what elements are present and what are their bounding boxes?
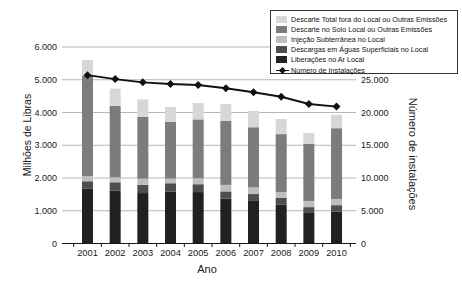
legend-item: Descarte Total fora do Local ou Outras E… bbox=[276, 14, 457, 24]
year-label: 2009 bbox=[299, 248, 320, 258]
legend-label: Liberações no Ar Local bbox=[291, 55, 364, 64]
bar-segment bbox=[331, 199, 342, 205]
year-label: 2008 bbox=[271, 248, 292, 258]
bar-segment bbox=[110, 106, 121, 177]
right-tick-label: 25.000 bbox=[361, 75, 389, 85]
diamond-marker bbox=[305, 100, 313, 108]
legend-item: Liberações no Ar Local bbox=[276, 55, 457, 65]
bar-segment bbox=[220, 191, 231, 198]
bar-segment bbox=[331, 115, 342, 128]
x-axis-title: Ano bbox=[167, 263, 247, 275]
bar-segment bbox=[82, 181, 93, 189]
bar-segment bbox=[137, 99, 148, 116]
right-tick-label: 10.000 bbox=[361, 173, 389, 183]
year-label: 2004 bbox=[160, 248, 181, 258]
bar-segment bbox=[331, 205, 342, 212]
bar-segment bbox=[165, 183, 176, 191]
year-label: 2001 bbox=[77, 248, 98, 258]
bar-segment bbox=[82, 76, 93, 176]
legend-item: Injeção Subterrânea no Local bbox=[276, 34, 457, 44]
legend-label: Injeção Subterrânea no Local bbox=[291, 35, 385, 44]
bar-segment bbox=[193, 192, 204, 243]
legend-item: Descargas em Águas Superficiais no Local bbox=[276, 45, 457, 55]
bar-segment bbox=[248, 111, 259, 127]
left-tick-label: 0 bbox=[52, 239, 57, 249]
legend-label: Número de Instalações bbox=[291, 66, 365, 75]
diamond-marker bbox=[333, 103, 341, 111]
bar-segment bbox=[220, 104, 231, 121]
diamond-marker bbox=[194, 81, 202, 89]
bar-segment bbox=[276, 205, 287, 244]
bar-segment bbox=[110, 191, 121, 244]
bar-segment bbox=[193, 178, 204, 184]
bar-segment bbox=[331, 212, 342, 244]
bar-segment bbox=[82, 189, 93, 244]
legend-box: Descarte Total fora do Local ou Outras E… bbox=[270, 10, 458, 74]
legend-swatch-offsite-disposal-icon bbox=[276, 16, 287, 23]
legend-item: Descarte no Solo Local ou Outras Emissõe… bbox=[276, 24, 457, 34]
bar-segment bbox=[137, 185, 148, 193]
bar-segment bbox=[193, 103, 204, 119]
bar-segment bbox=[110, 182, 121, 191]
diamond-marker bbox=[111, 75, 119, 83]
bar-segment bbox=[165, 191, 176, 243]
left-tick-label: 6.000 bbox=[34, 42, 57, 52]
year-label: 2006 bbox=[216, 248, 237, 258]
legend-swatch-onsite-land-icon bbox=[276, 26, 287, 33]
legend-item: Número de Instalações bbox=[276, 65, 457, 75]
year-label: 2003 bbox=[132, 248, 153, 258]
bar-segment bbox=[165, 107, 176, 122]
bar-segment bbox=[276, 134, 287, 192]
bar-segment bbox=[165, 122, 176, 179]
bar-segment bbox=[303, 213, 314, 243]
diamond-marker bbox=[167, 80, 175, 88]
bar-segment bbox=[248, 194, 259, 201]
legend-label: Descargas em Águas Superficiais no Local bbox=[291, 45, 428, 54]
left-tick-label: 4.000 bbox=[34, 108, 57, 118]
bar-segment bbox=[220, 185, 231, 192]
right-tick-label: 15.000 bbox=[361, 140, 389, 150]
bar-segment bbox=[248, 187, 259, 194]
right-tick-label: 20.000 bbox=[361, 108, 389, 118]
diamond-marker bbox=[277, 93, 285, 101]
legend-swatch-air-releases-icon bbox=[276, 56, 287, 63]
bar-segment bbox=[110, 89, 121, 106]
bar-segment bbox=[137, 117, 148, 179]
legend-label: Descarte no Solo Local ou Outras Emissõe… bbox=[291, 25, 432, 34]
bar-segment bbox=[193, 119, 204, 178]
diamond-marker bbox=[222, 84, 230, 92]
bar-segment bbox=[165, 179, 176, 184]
year-label: 2010 bbox=[326, 248, 347, 258]
left-tick-label: 1.000 bbox=[34, 206, 57, 216]
bar-segment bbox=[220, 199, 231, 244]
bar-segment bbox=[137, 193, 148, 243]
legend-swatch-surface-water-icon bbox=[276, 46, 287, 53]
left-tick-label: 2.000 bbox=[34, 173, 57, 183]
bar-segment bbox=[276, 198, 287, 205]
legend-label: Descarte Total fora do Local ou Outras E… bbox=[291, 15, 447, 24]
bar-segment bbox=[193, 184, 204, 192]
bar-segment bbox=[220, 121, 231, 185]
bar-segment bbox=[276, 192, 287, 198]
left-tick-label: 5.000 bbox=[34, 75, 57, 85]
bar-segment bbox=[303, 207, 314, 213]
bar-segment bbox=[303, 133, 314, 144]
year-label: 2002 bbox=[105, 248, 126, 258]
bar-segment bbox=[248, 127, 259, 187]
chart-figure: 01.0002.0003.0004.0005.0006.00005.00010.… bbox=[0, 0, 462, 292]
legend-swatch-underground-injection-icon bbox=[276, 36, 287, 43]
bar-segment bbox=[82, 176, 93, 181]
bar-segment bbox=[303, 144, 314, 201]
right-axis-title: Número de instalações bbox=[407, 69, 419, 239]
bar-segment bbox=[303, 201, 314, 207]
bar-segment bbox=[248, 201, 259, 244]
year-label: 2007 bbox=[243, 248, 264, 258]
bar-segment bbox=[137, 179, 148, 185]
bar-segment bbox=[110, 177, 121, 182]
left-tick-label: 3.000 bbox=[34, 140, 57, 150]
diamond-marker bbox=[250, 88, 258, 96]
right-tick-label: 0 bbox=[361, 239, 366, 249]
left-axis-title: Milhões de Libras bbox=[21, 75, 33, 195]
right-tick-label: 5.000 bbox=[361, 206, 384, 216]
bar-segment bbox=[276, 119, 287, 134]
